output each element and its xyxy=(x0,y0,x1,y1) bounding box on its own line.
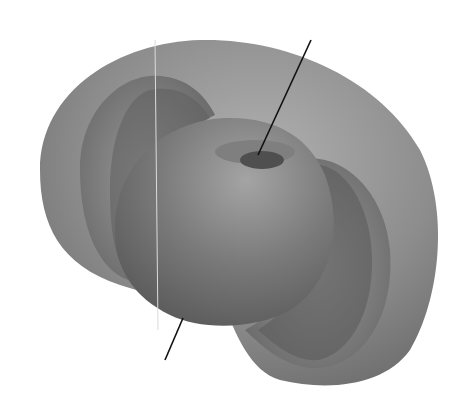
torus-3d-figure xyxy=(0,0,468,419)
axis-bottom xyxy=(165,318,183,360)
torus-illustration xyxy=(0,0,468,419)
center-dimple xyxy=(240,151,284,169)
